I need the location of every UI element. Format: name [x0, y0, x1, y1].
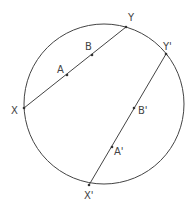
label-a: A	[57, 64, 64, 75]
label-y: Y	[127, 12, 135, 23]
point-bp	[133, 107, 136, 110]
label-ap: A'	[114, 146, 124, 157]
point-b	[91, 54, 94, 57]
label-xp: X'	[84, 190, 94, 201]
chord-xpyp	[89, 54, 166, 185]
point-yp	[165, 53, 168, 56]
label-yp: Y'	[162, 41, 172, 52]
point-a	[66, 74, 69, 77]
points: XYABX'Y'A'B'	[11, 12, 172, 201]
circle-chord-diagram: XYABX'Y'A'B'	[0, 0, 192, 211]
chord-xy	[24, 27, 126, 108]
point-xp	[88, 184, 91, 187]
label-x: X	[11, 105, 18, 116]
point-y	[125, 26, 128, 29]
point-ap	[111, 146, 114, 149]
label-bp: B'	[138, 105, 148, 116]
point-x	[23, 107, 26, 110]
label-b: B	[85, 41, 92, 52]
